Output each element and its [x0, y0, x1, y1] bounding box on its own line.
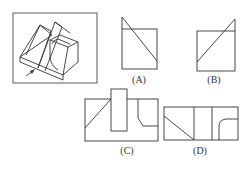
- option-c-label: (C): [112, 145, 142, 156]
- view-direction-arrow-icon: [26, 69, 35, 76]
- option-d-label: (D): [185, 145, 215, 156]
- option-b-label: (B): [199, 74, 229, 85]
- option-a-view: [122, 17, 157, 69]
- option-c-view: [85, 89, 158, 141]
- option-b-view: [197, 19, 235, 71]
- option-d-view: [164, 107, 238, 140]
- option-a-label: (A): [124, 74, 154, 85]
- isometric-figure: [13, 13, 97, 83]
